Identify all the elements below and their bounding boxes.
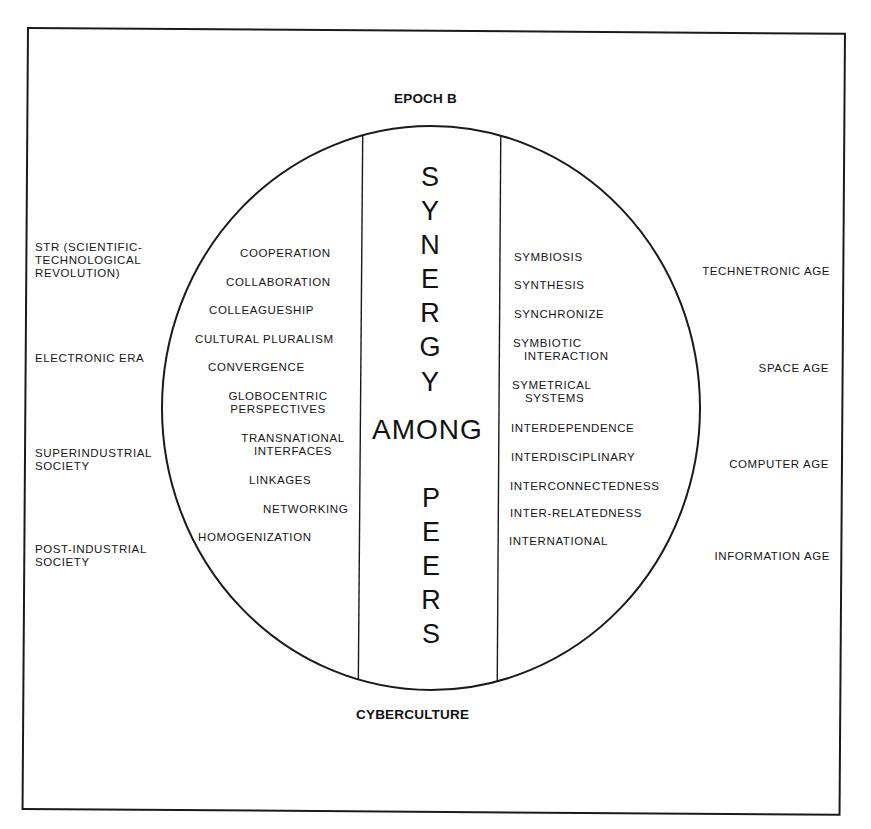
concept-label: INTERCONNECTEDNESS <box>510 480 659 493</box>
era-label: INFORMATION AGE <box>715 550 831 563</box>
era-label-line: REVOLUTION) <box>35 267 142 280</box>
era-label: COMPUTER AGE <box>729 458 829 471</box>
synergy-letter: E <box>415 266 445 293</box>
peers-letter: P <box>416 485 446 512</box>
era-label: ELECTRONIC ERA <box>35 352 144 365</box>
concept-label: INTERDEPENDENCE <box>511 422 634 435</box>
epoch-title: EPOCH B <box>394 91 457 106</box>
concept-label-multiline: SYMBIOTIC INTERACTION <box>513 337 609 363</box>
concept-label: SYNTHESIS <box>514 279 585 292</box>
synergy-letter: R <box>415 300 445 327</box>
era-label-multiline: SUPERINDUSTRIAL SOCIETY <box>35 447 152 473</box>
left-column-divider <box>358 100 363 720</box>
concept-label-line: SYMETRICAL <box>512 379 592 392</box>
peers-letter: S <box>416 621 446 648</box>
synergy-letter: Y <box>415 198 445 225</box>
era-label-line: SOCIETY <box>35 460 152 473</box>
concept-label: INTER-RELATEDNESS <box>510 507 642 520</box>
concept-label-line: SYSTEMS <box>512 392 592 405</box>
concept-label-line: GLOBOCENTRIC <box>216 390 340 403</box>
era-label-line: TECHNOLOGICAL <box>35 254 142 267</box>
concept-label: CULTURAL PLURALISM <box>195 333 334 346</box>
era-label-line: STR (SCIENTIFIC- <box>35 241 142 254</box>
concept-label-line: PERSPECTIVES <box>216 403 340 416</box>
concept-label: SYMBIOSIS <box>514 251 583 264</box>
era-label-multiline: STR (SCIENTIFIC- TECHNOLOGICAL REVOLUTIO… <box>35 241 142 280</box>
concept-label-multiline: TRANSNATIONAL INTERFACES <box>232 432 354 458</box>
concept-label-line: INTERACTION <box>513 350 609 363</box>
peers-letter: R <box>416 587 446 614</box>
concept-label-line: INTERFACES <box>232 445 354 458</box>
cyberculture-title: CYBERCULTURE <box>356 707 469 722</box>
concept-label-multiline: SYMETRICAL SYSTEMS <box>512 379 592 405</box>
era-label: TECHNETRONIC AGE <box>702 265 830 278</box>
concept-label: COOPERATION <box>240 247 331 260</box>
concept-label: INTERDISCIPLINARY <box>511 451 635 464</box>
concept-label: NETWORKING <box>263 503 348 516</box>
concept-label: CONVERGENCE <box>208 361 305 374</box>
concept-label: SYNCHRONIZE <box>514 308 604 321</box>
concept-label: COLLEAGUESHIP <box>209 304 314 317</box>
synergy-letter: Y <box>415 369 445 396</box>
era-label-multiline: POST-INDUSTRIAL SOCIETY <box>35 543 147 569</box>
concept-label: COLLABORATION <box>226 276 331 289</box>
peers-letter: E <box>416 519 446 546</box>
concept-label-line: TRANSNATIONAL <box>232 432 354 445</box>
concept-label-line: SYMBIOTIC <box>513 337 609 350</box>
among-word: AMONG <box>372 414 483 446</box>
era-label-line: SUPERINDUSTRIAL <box>35 447 152 460</box>
era-label-line: POST-INDUSTRIAL <box>35 543 147 556</box>
synergy-letter: N <box>415 232 445 259</box>
synergy-letter: S <box>415 164 445 191</box>
concept-label-multiline: GLOBOCENTRIC PERSPECTIVES <box>216 390 340 416</box>
concept-label: INTERNATIONAL <box>509 535 608 548</box>
peers-letter: E <box>416 553 446 580</box>
era-label-line: SOCIETY <box>35 556 147 569</box>
era-label: SPACE AGE <box>759 362 829 375</box>
concept-label: HOMOGENIZATION <box>198 531 312 544</box>
synergy-letter: G <box>415 334 445 361</box>
right-column-divider <box>497 100 501 720</box>
concept-label: LINKAGES <box>249 474 311 487</box>
